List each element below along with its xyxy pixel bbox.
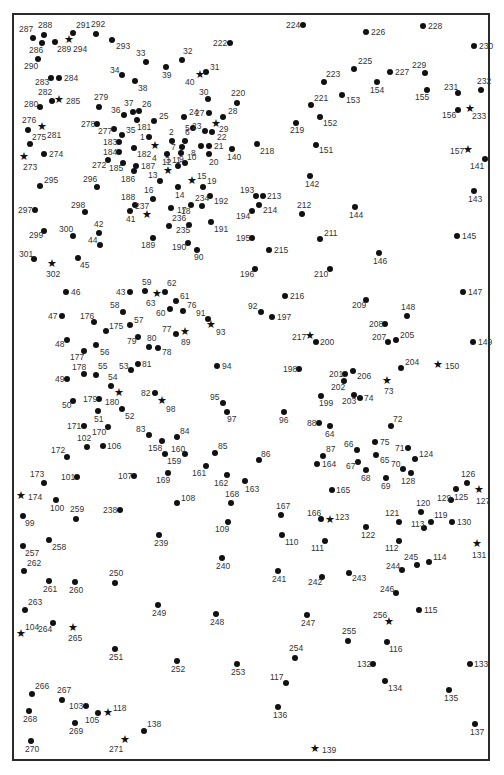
point-number: 189 [141, 241, 155, 250]
point-number: 135 [444, 694, 458, 703]
point-number: 145 [462, 232, 476, 241]
point-number: 126 [461, 470, 475, 479]
point-number: 211 [324, 229, 338, 238]
point-number: 205 [400, 331, 414, 340]
point-number: 257 [25, 549, 39, 558]
point-number: 156 [442, 111, 456, 120]
dot-icon [228, 500, 234, 506]
point-number: 237 [135, 202, 149, 211]
point-number: 260 [69, 586, 83, 595]
point-number: 206 [357, 372, 371, 381]
dot-icon [339, 92, 345, 98]
dot-icon [73, 516, 79, 522]
dot-icon [314, 461, 320, 467]
point-number: 203 [342, 397, 356, 406]
point-number: 101 [61, 473, 75, 482]
point-number: 114 [433, 553, 447, 562]
dot-icon [345, 638, 351, 644]
point-number: 25 [159, 112, 168, 121]
dot-icon [121, 112, 127, 118]
point-number: 198 [283, 365, 297, 374]
point-number: 10 [187, 153, 196, 162]
point-number: 226 [371, 28, 385, 37]
point-number: 177 [70, 353, 84, 362]
point-number: 221 [314, 94, 328, 103]
point-number: 228 [428, 22, 442, 31]
dot-icon [420, 23, 426, 29]
point-number: 246 [380, 585, 394, 594]
point-number: 170 [92, 428, 106, 437]
dot-icon [64, 337, 70, 343]
point-number: 36 [111, 106, 120, 115]
point-number: 56 [100, 348, 109, 357]
point-number: 23 [192, 122, 201, 131]
point-number: 240 [216, 562, 230, 571]
point-number: 186 [121, 175, 135, 184]
point-number: 137 [470, 728, 484, 737]
dot-icon [300, 22, 306, 28]
dot-icon [422, 70, 428, 76]
dot-icon [29, 691, 35, 697]
point-number: 210 [314, 270, 328, 279]
star-icon: ★ [103, 707, 113, 718]
point-number: 31 [210, 63, 219, 72]
point-number: 293 [116, 42, 130, 51]
point-number: 19 [207, 177, 216, 186]
point-number: 204 [405, 358, 419, 367]
point-number: 275 [32, 133, 46, 142]
point-number: 48 [55, 340, 64, 349]
point-number: 250 [109, 569, 123, 578]
dot-icon [84, 444, 90, 450]
point-number: 112 [385, 544, 399, 553]
point-number: 83 [136, 425, 145, 434]
point-number: 121 [385, 509, 399, 518]
point-number: 128 [401, 477, 415, 486]
point-number: 296 [83, 175, 97, 184]
dot-icon [109, 37, 115, 43]
dot-icon [173, 298, 179, 304]
point-number: 188 [121, 193, 135, 202]
point-number: 45 [80, 261, 89, 270]
point-number: 287 [19, 25, 33, 34]
dot-icon [354, 447, 360, 453]
point-number: 85 [218, 442, 227, 451]
point-number: 252 [171, 665, 185, 674]
star-icon: ★ [206, 319, 216, 330]
point-number: 167 [276, 502, 290, 511]
point-number: 124 [419, 450, 433, 459]
point-number: 213 [267, 192, 281, 201]
dot-icon [414, 562, 420, 568]
point-number: 207 [372, 333, 386, 342]
point-number: 16 [144, 186, 153, 195]
dot-icon [41, 32, 47, 38]
dot-icon [181, 114, 187, 120]
point-number: 163 [245, 485, 259, 494]
dot-icon [21, 568, 27, 574]
point-number: 281 [47, 131, 61, 140]
point-number: 146 [373, 257, 387, 266]
point-number: 72 [393, 415, 402, 424]
dot-icon [404, 313, 410, 319]
dot-icon [299, 211, 305, 217]
point-number: 157 [450, 147, 464, 156]
dot-icon [143, 59, 149, 65]
point-number: 216 [290, 292, 304, 301]
point-number: 13 [148, 171, 157, 180]
point-number: 69 [381, 482, 390, 491]
point-number: 271 [109, 745, 123, 754]
point-number: 161 [192, 469, 206, 478]
point-number: 199 [319, 399, 333, 408]
point-number: 158 [148, 444, 162, 453]
dot-icon [94, 184, 100, 190]
dot-icon [199, 203, 205, 209]
point-number: 29 [219, 125, 228, 134]
dot-icon [25, 127, 31, 133]
point-number: 286 [29, 46, 43, 55]
point-number: 77 [162, 325, 171, 334]
point-number: 107 [118, 472, 132, 481]
dot-icon [151, 118, 157, 124]
point-number: 225 [358, 57, 372, 66]
point-number: 166 [307, 509, 321, 518]
dot-icon [93, 342, 99, 348]
star-icon: ★ [187, 175, 197, 186]
